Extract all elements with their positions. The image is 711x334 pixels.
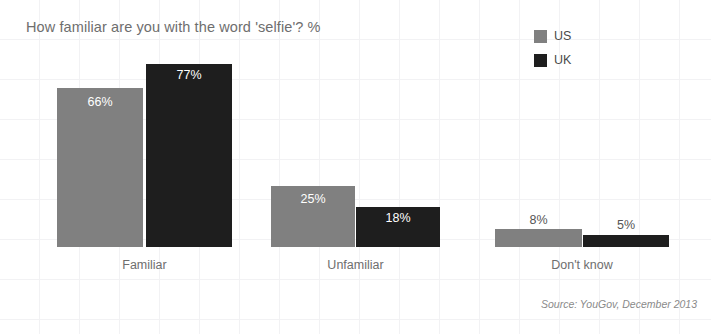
category-label-familiar: Familiar bbox=[57, 258, 232, 272]
bar-value-us-familiar: 66% bbox=[57, 95, 143, 109]
bar-value-uk-dont-know: 5% bbox=[583, 218, 669, 232]
source-note: Source: YouGov, December 2013 bbox=[541, 298, 697, 310]
bar-uk-dont-know[interactable] bbox=[583, 235, 669, 247]
bar-value-us-dont-know: 8% bbox=[495, 213, 582, 227]
bar-us-dont-know[interactable] bbox=[495, 229, 582, 247]
category-label-dont-know: Don't know bbox=[495, 258, 669, 272]
plot-area: 66% 77% Familiar 25% 18% Unfamiliar 8% 5… bbox=[0, 0, 711, 334]
chart-container: How familiar are you with the word 'self… bbox=[0, 0, 711, 334]
bar-value-us-unfamiliar: 25% bbox=[271, 192, 355, 206]
bar-value-uk-familiar: 77% bbox=[146, 68, 232, 82]
category-label-unfamiliar: Unfamiliar bbox=[271, 258, 440, 272]
bar-uk-familiar[interactable] bbox=[146, 64, 232, 247]
bar-value-uk-unfamiliar: 18% bbox=[356, 211, 440, 225]
bar-us-familiar[interactable] bbox=[57, 88, 143, 247]
